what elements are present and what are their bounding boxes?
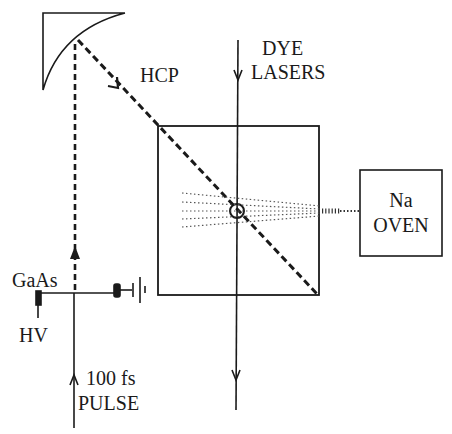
hcp-label: HCP xyxy=(140,65,179,85)
pulse-label-line1: 100 fs xyxy=(86,368,135,388)
dye-lasers-label-line1: DYE xyxy=(262,38,303,58)
oven-label-line2: OVEN xyxy=(360,215,442,235)
oven-label-line1: Na xyxy=(360,190,442,210)
na-oven-box xyxy=(360,170,442,256)
pulse-label-line2: PULSE xyxy=(78,393,139,413)
parabolic-mirror xyxy=(43,13,125,90)
fs-pulse-beam xyxy=(70,293,78,428)
hv-label: HV xyxy=(19,325,48,345)
hcp-beam-vertical xyxy=(70,40,80,290)
hcp-up-arrow-icon xyxy=(70,246,80,259)
ground-icon xyxy=(133,277,145,303)
ground-electrode xyxy=(114,284,120,297)
dye-lasers-label-line2: LASERS xyxy=(251,62,325,82)
atomic-beam xyxy=(182,193,320,227)
dye-lasers-beam xyxy=(232,40,242,410)
hcp-arrow-icon xyxy=(108,77,118,88)
hv-electrode xyxy=(36,291,41,305)
gaas-label: GaAs xyxy=(12,270,58,290)
